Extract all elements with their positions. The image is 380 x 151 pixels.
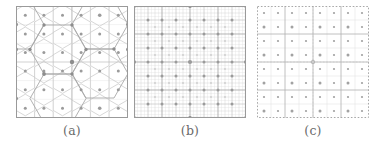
panel-c-caption: (c) [257, 123, 369, 139]
panel-b-svg [134, 6, 246, 118]
panel-a-svg [16, 6, 128, 118]
panel-a-hexagonal-mesh [16, 6, 128, 118]
panel-a-caption: (a) [16, 123, 128, 139]
panel-b-caption: (b) [134, 123, 246, 139]
panel-c-uniform-block-grid [257, 6, 369, 118]
panel-b-adaptive-grid [134, 6, 246, 118]
panel-c-svg [257, 6, 369, 118]
figure-container: (a) (b) (c) [0, 0, 380, 151]
